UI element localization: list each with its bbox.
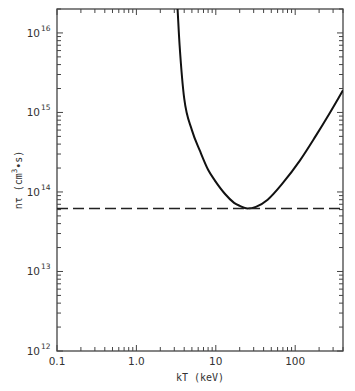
svg-text:nτ (cm3•s): nτ (cm3•s)	[10, 151, 24, 210]
y-tick-label-exponent: 13	[41, 262, 51, 271]
y-tick-label-exponent: 12	[41, 342, 51, 351]
y-axis-ticks	[57, 9, 343, 351]
series-layer	[57, 9, 343, 208]
x-tick-label: 10	[209, 355, 222, 367]
y-axis-label-main: nτ (cm	[13, 173, 24, 209]
y-tick-label-exponent: 16	[41, 24, 51, 33]
plot-frame	[57, 9, 343, 351]
y-tick-label: 10	[27, 106, 40, 118]
chart: 0.11.010100 10121013101410151016 kT (keV…	[0, 0, 355, 391]
x-axis-ticks	[57, 9, 343, 351]
y-tick-label: 10	[27, 265, 40, 277]
x-tick-label: 1.0	[128, 355, 145, 367]
solid-curve-series	[178, 9, 343, 208]
x-axis-label: kT (keV)	[176, 372, 224, 383]
y-tick-label: 10	[27, 27, 40, 39]
y-axis-label: nτ (cm3•s)	[10, 151, 24, 210]
y-tick-label: 10	[27, 345, 40, 357]
y-tick-labels: 10121013101410151016	[27, 24, 51, 357]
x-tick-label: 100	[285, 355, 305, 367]
y-axis-label-tail: •s)	[13, 151, 24, 169]
y-tick-label-exponent: 15	[41, 103, 51, 112]
x-tick-label: 0.1	[49, 355, 66, 367]
y-tick-label-exponent: 14	[41, 183, 51, 192]
x-tick-labels: 0.11.010100	[49, 355, 306, 367]
y-tick-label: 10	[27, 186, 40, 198]
